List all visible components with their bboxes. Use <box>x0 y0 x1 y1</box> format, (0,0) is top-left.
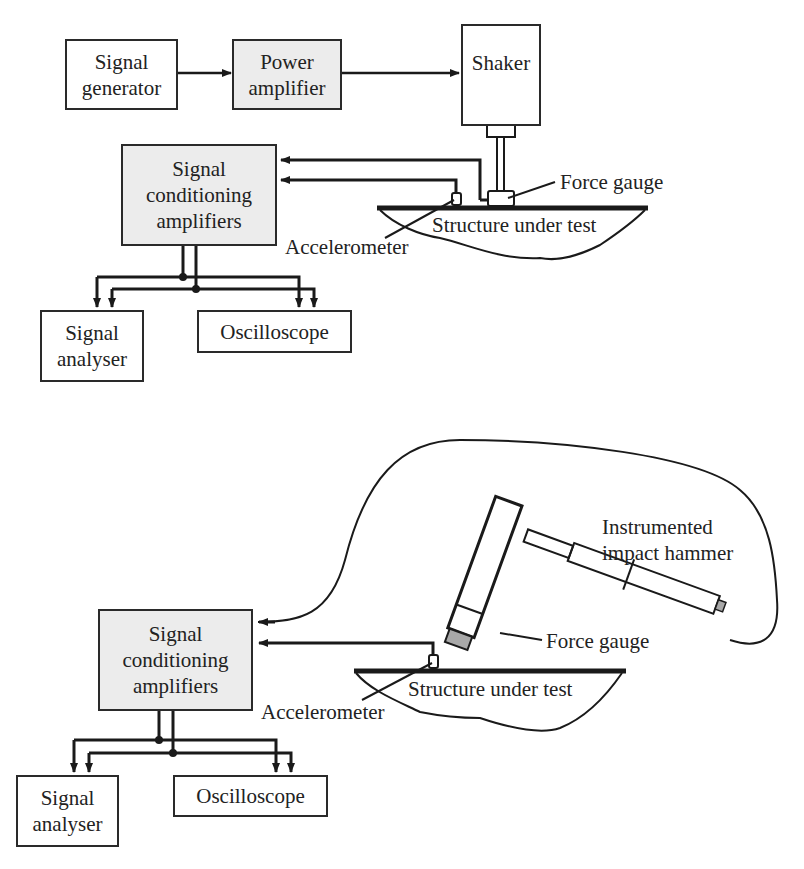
label: amplifier <box>249 75 326 101</box>
signal-conditioning-box: Signalconditioningamplifiers <box>121 144 277 246</box>
wire-accelerometer <box>281 180 456 193</box>
label: analyser <box>57 346 127 372</box>
structure-label: Structure under test <box>432 212 596 238</box>
power-amplifier-box: Poweramplifier <box>232 39 342 110</box>
accelerometer-label-2: Accelerometer <box>261 699 385 725</box>
label: amplifiers <box>146 208 252 234</box>
oscilloscope-box: Oscilloscope <box>197 310 352 353</box>
label: Shaker <box>472 50 530 76</box>
force-gauge-label-2: Force gauge <box>546 628 649 654</box>
force-gauge-label: Force gauge <box>560 169 663 195</box>
label: impact hammer <box>602 540 733 566</box>
accelerometer-label: Accelerometer <box>285 234 409 260</box>
label: conditioning <box>122 647 228 673</box>
label: Oscilloscope <box>220 319 328 345</box>
label: Power <box>249 49 326 75</box>
label: Oscilloscope <box>196 783 304 809</box>
label: amplifiers <box>122 673 228 699</box>
force-gauge-icon <box>488 191 514 206</box>
label: Signal <box>57 320 127 346</box>
signal-generator-box: Signalgenerator <box>65 39 178 110</box>
label: Signal <box>33 785 103 811</box>
oscilloscope-box-2: Oscilloscope <box>173 775 328 817</box>
label: generator <box>82 75 161 101</box>
hammer-label: Instrumented impact hammer <box>602 514 733 566</box>
impact-hammer-icon <box>443 496 522 650</box>
label: conditioning <box>146 182 252 208</box>
signal-conditioning-box-2: Signalconditioningamplifiers <box>98 609 253 711</box>
label: Signal <box>82 49 161 75</box>
shaker-mount-icon <box>487 125 515 137</box>
shaker-box: Shaker <box>461 24 541 126</box>
label: Signal <box>122 621 228 647</box>
label: Signal <box>146 156 252 182</box>
signal-analyser-box-2: Signalanalyser <box>16 775 119 847</box>
diagram-canvas <box>0 0 804 869</box>
signal-analyser-box: Signalanalyser <box>40 310 144 382</box>
label: Instrumented <box>602 514 733 540</box>
label: analyser <box>33 811 103 837</box>
accelerometer-icon <box>452 193 461 205</box>
structure-label-2: Structure under test <box>408 676 572 702</box>
